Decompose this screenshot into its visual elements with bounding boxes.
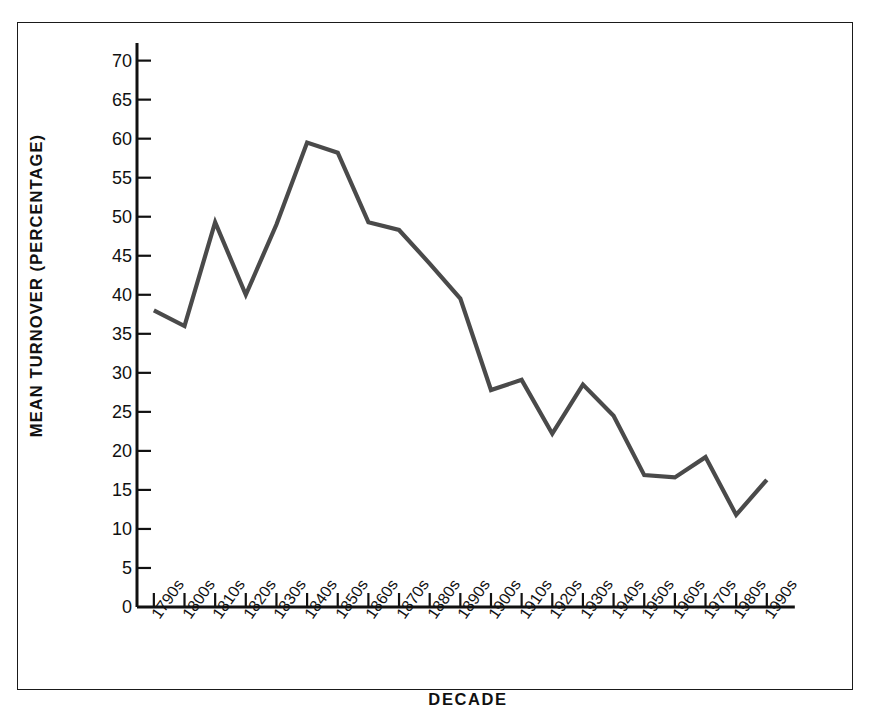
x-axis-tick-labels: 1790s1800s1810s1820s1830s1840s1850s1860s… <box>137 612 837 702</box>
x-axis-title: DECADE <box>137 690 799 709</box>
data-line-mean-turnover <box>154 143 767 515</box>
figure-canvas: MEAN TURNOVER (PERCENTAGE) 0510152025303… <box>0 0 873 728</box>
